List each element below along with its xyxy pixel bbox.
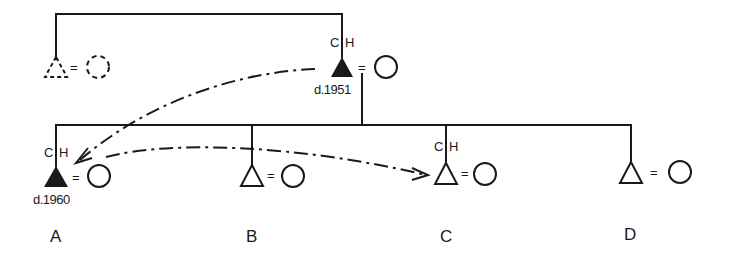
sibling-d-triangle-icon bbox=[620, 162, 642, 183]
absent-spouse-icon bbox=[87, 56, 109, 78]
father-spouse-circle-icon bbox=[375, 56, 397, 78]
sibling-b-triangle-icon bbox=[241, 165, 263, 186]
father-filled-triangle-icon bbox=[331, 57, 353, 77]
sibling-c-spouse-circle-icon bbox=[474, 163, 496, 185]
sibling-d-marriage-sign: = bbox=[650, 166, 658, 179]
father-marriage-sign: = bbox=[358, 61, 366, 74]
sibling-d-spouse-circle-icon bbox=[669, 161, 691, 183]
gen1-sibling-line bbox=[56, 14, 342, 58]
diagram-lines bbox=[0, 0, 731, 260]
absent-marriage-sign: = bbox=[70, 61, 78, 74]
sibling-a-filled-triangle-icon bbox=[44, 166, 68, 187]
kinship-diagram: = C H = d.1951 C H = d.1960 A = B C H = … bbox=[0, 0, 731, 260]
father-role-h: H bbox=[345, 36, 354, 49]
sibling-c-marriage-sign: = bbox=[461, 167, 469, 180]
sibling-d-label: D bbox=[624, 226, 636, 243]
sibling-a-role-c: C bbox=[44, 146, 53, 159]
father-death-label: d.1951 bbox=[314, 83, 351, 96]
sibling-c-label: C bbox=[440, 228, 452, 245]
sibling-b-label: B bbox=[246, 228, 257, 245]
sibling-a-death-label: d.1960 bbox=[33, 193, 70, 206]
sibling-a-spouse-circle-icon bbox=[88, 165, 110, 187]
sibling-b-marriage-sign: = bbox=[267, 169, 275, 182]
sibling-c-role-h: H bbox=[449, 140, 458, 153]
sibling-c-role-c: C bbox=[434, 140, 443, 153]
gen2-sibling-line bbox=[56, 125, 631, 167]
sibling-a-marriage-sign: = bbox=[72, 171, 80, 184]
father-role-c: C bbox=[330, 36, 339, 49]
sibling-a-label: A bbox=[50, 228, 61, 245]
absent-member-icon bbox=[45, 57, 67, 77]
sibling-a-role-h: H bbox=[59, 146, 68, 159]
sibling-b-spouse-circle-icon bbox=[282, 165, 304, 187]
transfer-arrow-father-to-a bbox=[76, 69, 315, 163]
sibling-c-triangle-icon bbox=[435, 163, 457, 184]
